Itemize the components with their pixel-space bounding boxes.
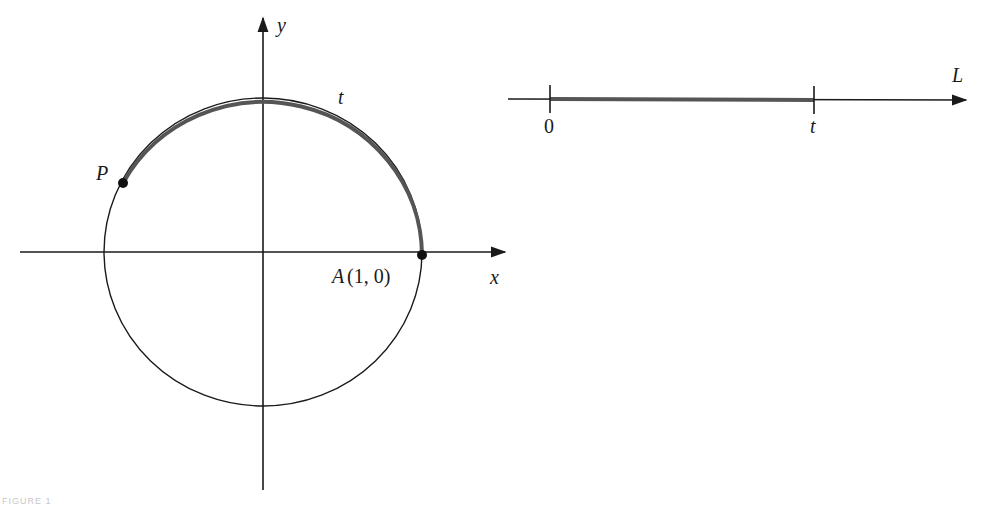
y-axis-label: y — [275, 14, 286, 37]
tick-t-label: t — [810, 115, 816, 137]
point-p — [118, 178, 128, 188]
point-a — [417, 250, 427, 260]
tick-0-label: 0 — [544, 115, 554, 137]
point-a-label: A — [330, 265, 345, 287]
line-l-label: L — [951, 64, 963, 86]
point-p-label: P — [95, 162, 108, 184]
unit-circle-figure: y x t P A (1, 0) 0 t L — [0, 0, 983, 505]
segment-0-to-t — [550, 99, 814, 100]
arc-t — [123, 102, 422, 255]
figure-caption: FIGURE 1 — [2, 496, 52, 505]
arc-t-label: t — [338, 86, 344, 108]
x-axis-label: x — [489, 266, 499, 288]
point-a-coords: (1, 0) — [347, 265, 390, 288]
